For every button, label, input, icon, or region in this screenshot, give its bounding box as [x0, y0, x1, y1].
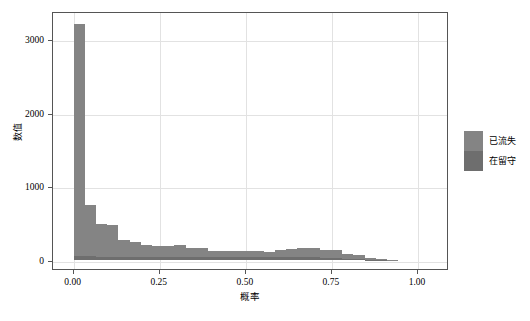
bar-segment-retained [365, 260, 376, 261]
histogram-bar [342, 254, 353, 260]
bar-segment-churned [107, 225, 118, 257]
y-axis-title: 数值 [13, 125, 23, 141]
bar-segment-retained [152, 257, 163, 260]
bar-segment-churned [309, 248, 320, 258]
histogram-bar [130, 242, 141, 260]
x-tick-mark [245, 270, 246, 274]
histogram-bar [365, 258, 376, 260]
histogram-bar [320, 250, 331, 260]
bar-segment-churned [208, 251, 219, 258]
bar-segment-retained [230, 257, 241, 260]
bar-segment-churned [320, 250, 331, 257]
histogram-bar [331, 250, 342, 260]
histogram-bar [96, 224, 107, 260]
legend-item-1: 在留守 [464, 151, 526, 171]
legend-swatch-icon-1 [464, 151, 483, 171]
gridline-vertical [246, 13, 247, 269]
gridline-horizontal [53, 41, 447, 42]
bar-segment-retained [107, 257, 118, 260]
bar-segment-churned [286, 249, 297, 257]
histogram-bar [208, 251, 219, 261]
bar-segment-churned [275, 250, 286, 257]
bar-segment-churned [163, 246, 174, 257]
y-tick-label: 2000 [0, 109, 44, 119]
histogram-bar [186, 248, 197, 261]
bar-segment-retained [353, 259, 364, 260]
x-tick-mark [331, 270, 332, 274]
bar-segment-churned [342, 254, 353, 258]
x-tick-label: 1.00 [397, 277, 437, 288]
bar-segment-churned [74, 24, 85, 256]
bar-segment-churned [365, 258, 376, 259]
histogram-bar [85, 205, 96, 260]
x-axis-title: 概率 [52, 292, 448, 303]
histogram-bar [286, 249, 297, 260]
histogram-bar [297, 248, 308, 261]
bar-segment-churned [242, 251, 253, 258]
bar-segment-retained [309, 257, 320, 260]
bar-segment-retained [197, 257, 208, 260]
histogram-bar [309, 248, 320, 261]
x-tick-mark [417, 270, 418, 274]
bar-segment-churned [230, 251, 241, 258]
bar-segment-churned [186, 248, 197, 258]
histogram-bar [376, 259, 387, 260]
histogram-bar [118, 240, 129, 260]
x-tick-label: 0.00 [53, 277, 93, 288]
bar-segment-retained [342, 259, 353, 260]
bar-segment-retained [130, 257, 141, 260]
bar-segment-churned [174, 245, 185, 258]
bar-segment-retained [219, 257, 230, 260]
bar-segment-retained [96, 257, 107, 260]
gridline-vertical [160, 13, 161, 269]
gridline-vertical [332, 13, 333, 269]
y-tick-label: 0 [0, 256, 44, 266]
histogram-bar [230, 251, 241, 261]
legend: 已流失 在留守 [464, 131, 526, 171]
x-tick-label: 0.25 [139, 277, 179, 288]
histogram-bar [275, 250, 286, 260]
bar-segment-churned [152, 246, 163, 257]
bar-segment-retained [174, 257, 185, 260]
bar-segment-retained [242, 257, 253, 260]
histogram-figure: 数值 0100020003000 0.000.250.500.751.00 概率… [0, 0, 530, 321]
histogram-bar [74, 24, 85, 260]
plot-area [52, 12, 448, 270]
bar-segment-retained [141, 257, 152, 260]
bar-segment-retained [74, 256, 85, 260]
legend-item-0: 已流失 [464, 131, 526, 151]
bar-segment-retained [331, 258, 342, 260]
bar-segment-retained [253, 257, 264, 260]
bar-segment-churned [130, 242, 141, 257]
bar-segment-churned [141, 245, 152, 257]
histogram-bar [253, 251, 264, 260]
x-tick-mark [159, 270, 160, 274]
x-tick-label: 0.75 [311, 277, 351, 288]
bar-segment-retained [118, 257, 129, 260]
gridline-horizontal [53, 115, 447, 116]
bar-segment-churned [331, 250, 342, 258]
gridline-horizontal [53, 262, 447, 263]
histogram-bar [219, 251, 230, 260]
bar-segment-churned [219, 251, 230, 257]
bar-segment-churned [376, 259, 387, 260]
bar-segment-retained [163, 257, 174, 260]
bar-segment-retained [186, 257, 197, 260]
histogram-bar [152, 246, 163, 260]
histogram-bar [264, 252, 275, 260]
bar-segment-retained [286, 257, 297, 260]
y-tick-label: 3000 [0, 35, 44, 45]
gridline-vertical [418, 13, 419, 269]
bar-segment-retained [320, 258, 331, 261]
bar-segment-retained [85, 256, 96, 260]
y-tick-label: 1000 [0, 182, 44, 192]
bar-segment-churned [297, 248, 308, 258]
bar-segment-retained [275, 257, 286, 260]
bar-segment-churned [85, 205, 96, 256]
histogram-bar [163, 246, 174, 260]
x-tick-mark [73, 270, 74, 274]
histogram-bar [107, 225, 118, 260]
legend-swatch-icon-0 [464, 131, 483, 151]
histogram-bar [141, 245, 152, 260]
histogram-bar [174, 245, 185, 260]
